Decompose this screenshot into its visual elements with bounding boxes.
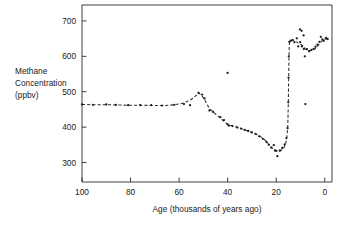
data-point: [219, 116, 221, 118]
data-point: [303, 48, 305, 50]
y-axis-title-line-1: Methane: [15, 66, 48, 76]
chart-canvas: 300400500600700 100806040200 Methane Con…: [0, 0, 342, 228]
data-point: [236, 126, 238, 128]
data-point: [243, 129, 245, 131]
data-point: [326, 38, 328, 40]
data-point: [268, 144, 270, 146]
data-point: [281, 147, 283, 149]
data-point: [320, 36, 322, 38]
data-point: [115, 104, 117, 106]
data-point: [150, 104, 152, 106]
data-point: [183, 103, 185, 105]
data-point: [293, 41, 295, 43]
data-point: [228, 125, 230, 127]
data-point: [314, 46, 316, 48]
data-point: [92, 104, 94, 106]
x-axis-title: Age (thousands of years ago): [153, 204, 262, 214]
data-point: [301, 45, 303, 47]
data-point: [212, 111, 214, 113]
y-tick-label: 600: [62, 51, 76, 61]
data-point: [247, 130, 249, 132]
data-point: [251, 131, 253, 133]
y-axis-title-line-2: Concentration: [15, 78, 67, 88]
data-point: [306, 48, 308, 50]
data-point: [189, 104, 191, 106]
y-tick-label: 700: [62, 16, 76, 26]
data-point: [270, 147, 272, 149]
data-point: [318, 41, 320, 43]
x-tick-label: 0: [322, 187, 327, 197]
data-point: [275, 150, 277, 152]
y-tick-label: 500: [62, 87, 76, 97]
data-point: [127, 104, 129, 106]
data-point: [208, 109, 210, 111]
data-point: [288, 55, 290, 57]
data-point: [105, 103, 107, 105]
data-point: [197, 92, 199, 94]
data-point: [299, 41, 301, 43]
data-point: [279, 149, 281, 151]
data-point: [240, 127, 242, 129]
methane-concentration-chart: 300400500600700 100806040200 Methane Con…: [0, 0, 342, 228]
chart-background: [0, 0, 342, 228]
data-point: [296, 37, 298, 39]
data-point: [287, 101, 289, 103]
data-point: [81, 103, 83, 105]
data-point: [231, 125, 233, 127]
data-point: [265, 141, 267, 143]
data-point: [308, 50, 310, 52]
data-point: [223, 119, 225, 121]
data-point: [173, 104, 175, 106]
data-point: [254, 133, 256, 135]
data-point: [302, 34, 304, 36]
data-point: [286, 127, 288, 129]
y-axis-title-line-3: (ppbv): [15, 90, 39, 100]
x-tick-label: 60: [174, 187, 184, 197]
data-point: [284, 143, 286, 145]
data-point: [139, 104, 141, 106]
data-point: [312, 48, 314, 50]
data-point: [285, 137, 287, 139]
data-point: [258, 135, 260, 137]
y-tick-label: 400: [62, 122, 76, 132]
data-point: [304, 55, 306, 57]
data-point: [292, 39, 294, 41]
x-tick-label: 40: [223, 187, 233, 197]
data-point: [304, 103, 306, 105]
data-point: [262, 138, 264, 140]
data-point: [301, 30, 303, 32]
data-point: [273, 144, 275, 146]
x-tick-label: 100: [75, 187, 89, 197]
x-tick-label: 20: [272, 187, 282, 197]
data-point: [287, 76, 289, 78]
data-point: [316, 44, 318, 46]
x-tick-label: 80: [126, 187, 136, 197]
y-tick-label: 300: [62, 158, 76, 168]
data-point: [161, 104, 163, 106]
data-point: [226, 72, 228, 74]
data-point: [297, 45, 299, 47]
data-point: [323, 40, 325, 42]
data-point: [276, 155, 278, 157]
data-point: [203, 97, 205, 99]
data-point: [310, 49, 312, 51]
data-point: [201, 93, 203, 95]
